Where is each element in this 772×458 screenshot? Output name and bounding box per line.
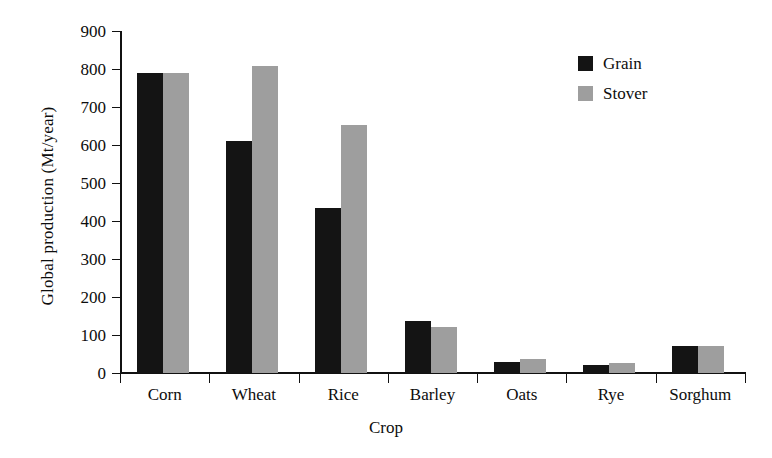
- y-axis-title: Global production (Mt/year): [38, 46, 58, 366]
- bar-rye-stover: [609, 363, 635, 373]
- y-axis-tick: [112, 107, 120, 108]
- y-axis-tick: [112, 145, 120, 146]
- x-axis-tick: [745, 374, 746, 383]
- x-axis-tick: [120, 374, 121, 383]
- y-axis-tick: [112, 183, 120, 184]
- chart-legend: GrainStover: [578, 48, 647, 108]
- legend-swatch-icon: [578, 56, 593, 71]
- y-axis-tick-label: 700: [44, 99, 106, 116]
- bar-rice-stover: [341, 125, 367, 373]
- x-axis-tick: [388, 374, 389, 383]
- legend-item-stover: Stover: [578, 78, 647, 108]
- bar-wheat-stover: [252, 66, 278, 373]
- y-axis-tick: [112, 297, 120, 298]
- y-axis-tick-label: 600: [44, 137, 106, 154]
- bar-corn-grain: [137, 73, 163, 373]
- y-axis-tick-label: 0: [44, 365, 106, 382]
- y-axis-tick-label: 900: [44, 23, 106, 40]
- x-axis-tick: [299, 374, 300, 383]
- bar-corn-stover: [163, 73, 189, 373]
- y-axis-tick-label: 300: [44, 251, 106, 268]
- legend-swatch-icon: [578, 86, 593, 101]
- plot-area: [120, 31, 745, 373]
- y-axis-tick: [112, 221, 120, 222]
- y-axis-tick-label: 800: [44, 61, 106, 78]
- x-axis-tick: [566, 374, 567, 383]
- y-axis-tick: [112, 373, 120, 374]
- y-axis-tick-label: 200: [44, 289, 106, 306]
- bar-barley-grain: [405, 321, 431, 373]
- y-axis-tick-label: 400: [44, 213, 106, 230]
- x-axis-tick-label: Sorghum: [640, 386, 760, 405]
- bar-rye-grain: [583, 365, 609, 373]
- bar-rice-grain: [315, 208, 341, 373]
- legend-item-grain: Grain: [578, 48, 647, 78]
- x-axis-tick: [656, 374, 657, 383]
- legend-label: Grain: [603, 55, 642, 72]
- bar-barley-stover: [431, 327, 457, 373]
- y-axis-tick: [112, 69, 120, 70]
- x-axis-tick: [209, 374, 210, 383]
- y-axis-tick-label: 100: [44, 327, 106, 344]
- bar-oats-stover: [520, 359, 546, 373]
- bar-oats-grain: [494, 362, 520, 373]
- x-axis-title: Crop: [0, 418, 772, 438]
- y-axis-tick-label: 500: [44, 175, 106, 192]
- bar-chart: Global production (Mt/year) 010020030040…: [0, 0, 772, 458]
- y-axis-tick: [112, 259, 120, 260]
- y-axis-tick: [112, 335, 120, 336]
- legend-label: Stover: [603, 85, 647, 102]
- bar-wheat-grain: [226, 141, 252, 373]
- y-axis-tick: [112, 31, 120, 32]
- bar-sorghum-stover: [698, 346, 724, 373]
- bar-sorghum-grain: [672, 346, 698, 373]
- x-axis-tick: [477, 374, 478, 383]
